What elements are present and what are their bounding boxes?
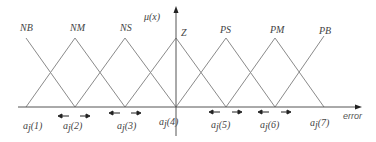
y-axis-label: μ(x)	[143, 11, 161, 23]
label-nm: NM	[69, 22, 86, 33]
point-label-5: aj(5)	[211, 119, 231, 132]
set-nm	[26, 38, 125, 107]
point-label-3: aj(3)	[117, 120, 137, 133]
membership-functions	[26, 36, 324, 107]
set-labels: NB NM NS Z PS PM PB	[19, 22, 331, 38]
label-pm: PM	[269, 24, 285, 35]
y-axis-arrow-icon	[174, 6, 179, 13]
label-pb: PB	[318, 25, 331, 36]
label-ns: NS	[119, 22, 132, 33]
point-labels: aj(1) aj(2) aj(3) aj(4) aj(5) aj(6) aj(7…	[23, 116, 330, 133]
label-nb: NB	[19, 22, 33, 33]
set-ps	[176, 38, 275, 107]
adjust-arrow-2	[58, 114, 90, 118]
set-pm	[226, 38, 324, 107]
point-label-1: aj(1)	[23, 120, 43, 133]
label-z: Z	[181, 27, 187, 38]
adjust-arrow-5	[209, 110, 242, 114]
x-axis-label: error	[343, 111, 363, 121]
x-axis-arrow-icon	[355, 105, 362, 110]
label-ps: PS	[219, 24, 231, 35]
adjust-arrow-6	[258, 110, 291, 114]
fuzzy-membership-diagram: NB NM NS Z PS PM PB μ(x) error aj(1) aj(…	[0, 0, 376, 142]
adjust-arrow-3	[109, 111, 141, 115]
point-label-2: aj(2)	[63, 120, 83, 133]
point-label-7: aj(7)	[310, 117, 330, 130]
set-ns	[75, 38, 176, 107]
point-label-6: aj(6)	[260, 119, 280, 132]
